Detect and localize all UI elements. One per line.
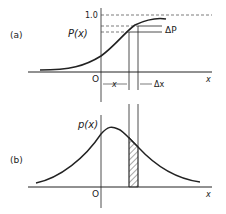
panel-b: (b) p(x) O x — [10, 104, 212, 208]
x-axis-label-a: x — [205, 75, 211, 84]
cdf-label: P(x) — [68, 28, 88, 39]
y-tick-1-0: 1.0 — [85, 11, 98, 20]
pdf-label: p(x) — [77, 119, 98, 130]
x-axis-label-b: x — [205, 190, 211, 199]
origin-a: O — [92, 74, 99, 84]
origin-b: O — [92, 189, 99, 199]
hatched-area — [129, 137, 138, 187]
figure: (a) P(x) 1.0 ΔP O x x Δx (b) p(x) O x — [0, 0, 226, 214]
x-interval-label: x — [111, 80, 117, 89]
panel-a-tag: (a) — [10, 30, 23, 40]
delta-x-label: Δx — [154, 80, 164, 89]
delta-p-label: ΔP — [165, 25, 177, 35]
panel-b-tag: (b) — [10, 155, 23, 165]
panel-a: (a) P(x) 1.0 ΔP O x x Δx — [10, 8, 212, 102]
pdf-curve — [36, 127, 200, 183]
